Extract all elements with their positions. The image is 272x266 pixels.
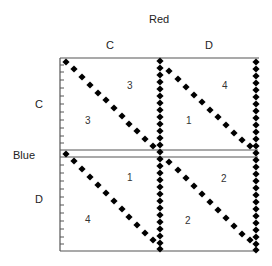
payoff-dd-blue: 2 <box>185 215 191 226</box>
vertical-markers-middle <box>156 57 163 252</box>
payoff-cc-red: 3 <box>127 80 133 91</box>
payoff-dd-red: 2 <box>221 173 227 184</box>
payoff-cc-blue: 3 <box>85 115 91 126</box>
payoff-grid <box>0 0 272 266</box>
payoff-cd-red: 4 <box>222 80 228 91</box>
payoff-dc-red: 1 <box>127 172 133 183</box>
diagonal-markers-cc <box>62 58 156 149</box>
diagonal-markers-dc <box>62 150 156 243</box>
diagonal-markers-dd <box>165 158 253 243</box>
vertical-markers-right <box>252 58 259 253</box>
diagonal-markers-cd <box>165 67 253 149</box>
payoff-cd-blue: 1 <box>186 115 192 126</box>
payoff-dc-blue: 4 <box>85 214 91 225</box>
